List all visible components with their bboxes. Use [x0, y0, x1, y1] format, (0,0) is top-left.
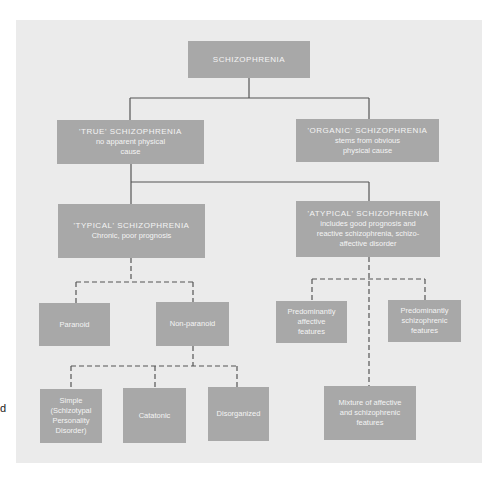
node-label: Predominantly	[288, 307, 336, 317]
node-title: 'TYPICAL' SCHIZOPHRENIA	[74, 221, 190, 231]
node-catatonic: Catatonic	[123, 388, 186, 443]
node-schizophrenia: SCHIZOPHRENIA	[188, 41, 310, 78]
node-description: no apparent physical	[96, 137, 165, 147]
node-label: (Schizotypal	[51, 406, 92, 416]
node-label: Disorganized	[217, 409, 261, 419]
node-description: physical cause	[343, 146, 392, 156]
node-title: 'TRUE' SCHIZOPHRENIA	[79, 127, 182, 137]
node-disorganized: Disorganized	[208, 387, 269, 441]
node-label: Predominantly	[401, 306, 449, 316]
node-title: 'ATYPICAL' SCHIZOPHRENIA	[307, 209, 428, 219]
node-title: 'ORGANIC' SCHIZOPHRENIA	[308, 126, 428, 136]
node-atypical-schizophrenia: 'ATYPICAL' SCHIZOPHRENIA includes good p…	[296, 201, 440, 257]
node-label: features	[298, 327, 325, 337]
node-description: includes good prognosis and	[320, 219, 416, 229]
node-label: Non-paranoid	[170, 319, 215, 329]
node-typical-schizophrenia: 'TYPICAL' SCHIZOPHRENIA Chronic, poor pr…	[58, 204, 205, 258]
node-label: features	[356, 418, 383, 428]
node-simple: Simple (Schizotypal Personality Disorder…	[40, 389, 102, 443]
node-label: Mixture of affective	[339, 398, 402, 408]
node-label: affective	[298, 317, 326, 327]
node-label: features	[411, 326, 438, 336]
node-non-paranoid: Non-paranoid	[156, 302, 229, 346]
node-description: affective disorder	[340, 239, 397, 249]
node-true-schizophrenia: 'TRUE' SCHIZOPHRENIA no apparent physica…	[57, 120, 204, 164]
node-organic-schizophrenia: 'ORGANIC' SCHIZOPHRENIA stems from obvio…	[296, 119, 439, 162]
node-label: Paranoid	[59, 320, 89, 330]
node-label: Disorder)	[56, 426, 87, 436]
node-predominantly-schizophrenic: Predominantly schizophrenic features	[388, 300, 461, 342]
node-title: SCHIZOPHRENIA	[213, 55, 285, 65]
node-description: reactive schizophrenia, schizo-	[317, 229, 420, 239]
node-predominantly-affective: Predominantly affective features	[276, 301, 347, 343]
node-label: Catatonic	[139, 411, 171, 421]
node-label: and schizophrenic	[340, 408, 400, 418]
node-mixture: Mixture of affective and schizophrenic f…	[324, 386, 416, 440]
node-label: Simple	[60, 396, 83, 406]
node-description: stems from obvious	[335, 136, 400, 146]
node-description: cause	[120, 147, 140, 157]
node-paranoid: Paranoid	[39, 303, 110, 346]
node-description: Chronic, poor prognosis	[92, 231, 172, 241]
node-label: Personality	[52, 416, 89, 426]
node-label: schizophrenic	[402, 316, 448, 326]
